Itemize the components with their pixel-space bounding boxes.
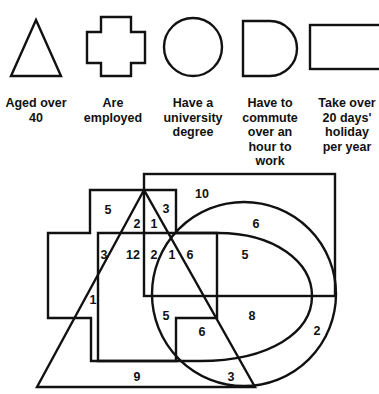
triangle-icon: [11, 20, 61, 76]
region-count: 2: [314, 324, 321, 338]
legend-label-line: commute: [230, 111, 310, 126]
region-count: 10: [195, 187, 209, 201]
region-count: 5: [242, 248, 249, 262]
region-count: 3: [228, 370, 235, 384]
legend-label-line: university: [153, 111, 233, 126]
triangle-age-region: [37, 190, 255, 387]
region-count: 6: [187, 248, 194, 262]
legend-label-line: Aged over: [0, 96, 76, 111]
region-count: 5: [163, 309, 170, 323]
region-count: 3: [163, 202, 170, 216]
legend-label-line: work: [230, 154, 310, 169]
legend-label-line: degree: [153, 125, 233, 140]
legend-label-line: Have a: [153, 96, 233, 111]
legend-label-triangle: Aged over40: [0, 96, 76, 125]
region-count: 6: [199, 325, 206, 339]
legend-label-line: holiday: [307, 125, 379, 140]
region-count: 2: [134, 217, 141, 231]
legend-label-line: 20 days': [307, 111, 379, 126]
rectangle-icon: [310, 25, 379, 69]
circle-icon: [164, 18, 222, 76]
legend-label-line: per year: [307, 140, 379, 155]
circle-degree-region: [152, 202, 336, 386]
d-shape-icon: [243, 21, 297, 76]
region-count: 12: [126, 248, 140, 262]
region-count: 2: [151, 248, 158, 262]
region-count: 3: [101, 248, 108, 262]
legend-label-line: Are: [73, 96, 153, 111]
legend-label-line: Have to: [230, 96, 310, 111]
legend-label-line: 40: [0, 111, 76, 126]
region-count: 1: [151, 217, 158, 231]
legend-label-rectangle: Take over20 days'holidayper year: [307, 96, 379, 154]
region-count: 6: [253, 217, 260, 231]
legend-label-line: Take over: [307, 96, 379, 111]
region-count: 8: [249, 309, 256, 323]
region-count: 5: [105, 203, 112, 217]
region-count: 1: [169, 248, 176, 262]
legend-label-line: hour to: [230, 140, 310, 155]
legend-label-circle: Have auniversitydegree: [153, 96, 233, 140]
region-count: 1: [90, 293, 97, 307]
region-count: 9: [134, 370, 141, 384]
legend-label-line: over an: [230, 125, 310, 140]
venn-diagram: 521310631221651586293: [0, 0, 379, 394]
legend-label-cross: Areemployed: [73, 96, 153, 125]
cross-icon: [87, 17, 145, 76]
legend-label-line: employed: [73, 111, 153, 126]
legend-label-d-shape: Have tocommuteover anhour towork: [230, 96, 310, 169]
